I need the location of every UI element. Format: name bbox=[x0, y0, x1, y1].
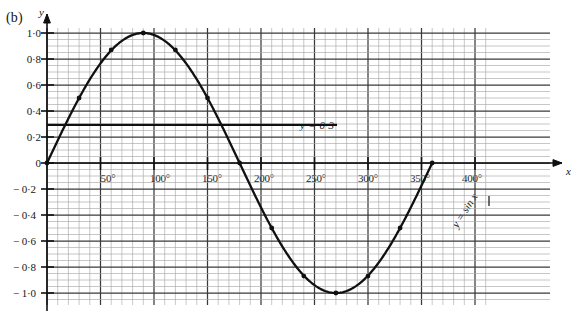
plot-canvas bbox=[0, 0, 581, 311]
data-point bbox=[430, 161, 435, 166]
data-point bbox=[334, 291, 339, 296]
data-point bbox=[301, 274, 306, 279]
data-point bbox=[269, 226, 274, 231]
data-point bbox=[109, 48, 114, 53]
data-point bbox=[398, 226, 403, 231]
graph-figure: (b) y x y = 0·3 y = sin x 1·0 0·8 0·6 0·… bbox=[0, 0, 581, 311]
y-axis-arrow bbox=[44, 14, 51, 23]
data-point bbox=[237, 161, 242, 166]
data-point bbox=[205, 96, 210, 101]
data-point bbox=[366, 274, 371, 279]
data-point bbox=[173, 48, 178, 53]
data-point bbox=[45, 161, 50, 166]
data-point bbox=[141, 31, 146, 36]
x-axis-arrow bbox=[553, 160, 562, 167]
data-point bbox=[77, 96, 82, 101]
